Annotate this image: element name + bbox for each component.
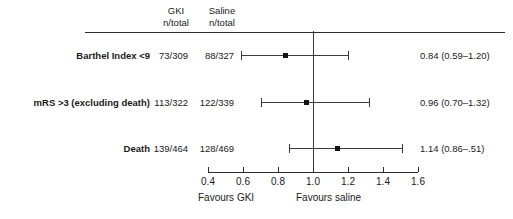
ci-cap-low-2: [289, 144, 290, 153]
row-estimate-0: 0.84 (0.59–1.20): [420, 50, 490, 61]
row-estimate-2: 1.14 (0.86–.51): [420, 143, 484, 154]
x-axis-tick-label-6: 1.6: [403, 176, 433, 187]
x-axis-line: [208, 172, 418, 173]
header-rule: [85, 32, 505, 33]
estimate-marker-1: [304, 100, 309, 105]
x-axis-tick-label-0: 0.4: [193, 176, 223, 187]
ci-cap-high-0: [348, 51, 349, 60]
ci-line-2: [289, 148, 403, 149]
estimate-marker-0: [283, 53, 288, 58]
row-saline-1: 122/339: [189, 97, 234, 108]
row-saline-0: 88/327: [191, 50, 234, 61]
ci-cap-low-1: [261, 98, 262, 107]
estimate-marker-2: [335, 146, 340, 151]
column-header-saline-line1: Saline: [209, 5, 235, 16]
ci-line-1: [261, 102, 370, 103]
x-axis-tick-5: [383, 167, 384, 172]
x-axis-tick-label-2: 0.8: [263, 176, 293, 187]
row-gki-0: 73/309: [148, 50, 188, 61]
row-gki-2: 139/464: [148, 143, 188, 154]
column-header-saline-line2: n/total: [209, 17, 235, 28]
row-label-2: Death: [0, 143, 150, 154]
column-header-gki-line2: n/total: [163, 17, 189, 28]
row-gki-1: 113/322: [148, 97, 188, 108]
row-estimate-1: 0.96 (0.70–1.32): [420, 97, 490, 108]
x-axis-tick-0: [208, 167, 209, 172]
x-axis-tick-6: [418, 167, 419, 172]
x-axis-tick-2: [278, 167, 279, 172]
x-axis-tick-label-4: 1.2: [333, 176, 363, 187]
favours-right-label: Favours saline: [296, 192, 361, 203]
x-axis-tick-label-3: 1.0: [298, 176, 328, 187]
x-axis-tick-label-1: 0.6: [228, 176, 258, 187]
forest-plot: GKI n/total Saline n/total Barthel Index…: [0, 0, 513, 219]
x-axis-tick-3: [313, 167, 314, 172]
ci-line-0: [241, 55, 348, 56]
ci-cap-low-0: [241, 51, 242, 60]
ci-cap-high-1: [369, 98, 370, 107]
row-label-1: mRS >3 (excluding death): [0, 97, 150, 108]
row-saline-2: 128/469: [189, 143, 234, 154]
row-label-0: Barthel Index <9: [0, 50, 150, 61]
favours-left-label: Favours GKI: [198, 192, 254, 203]
ci-cap-high-2: [402, 144, 403, 153]
x-axis-tick-1: [243, 167, 244, 172]
x-axis-tick-4: [348, 167, 349, 172]
column-header-saline: Saline n/total: [193, 5, 251, 28]
column-header-gki-line1: GKI: [168, 5, 184, 16]
x-axis-tick-label-5: 1.4: [368, 176, 398, 187]
